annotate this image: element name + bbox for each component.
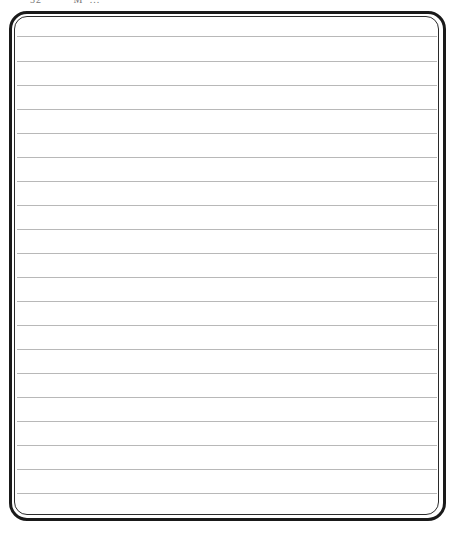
ruled-line	[17, 109, 437, 110]
ruled-line	[17, 181, 437, 182]
ruled-line	[17, 301, 437, 302]
ruled-line	[17, 36, 437, 37]
ruled-line	[17, 133, 437, 134]
ruled-line	[17, 229, 437, 230]
page-header: 32 M' ...	[30, 0, 100, 5]
ruled-line	[17, 445, 437, 446]
page-number: 32	[30, 0, 42, 5]
ruled-line	[17, 325, 437, 326]
ruled-line	[17, 277, 437, 278]
ruled-line	[17, 61, 437, 62]
ruled-line	[17, 373, 437, 374]
ruled-line	[17, 157, 437, 158]
ruled-line	[17, 421, 437, 422]
ruled-line	[17, 469, 437, 470]
ruled-line	[17, 85, 437, 86]
ruled-line	[17, 253, 437, 254]
ruled-line	[17, 349, 437, 350]
running-title: M' ...	[74, 0, 101, 5]
ruled-line	[17, 397, 437, 398]
ruled-line	[17, 205, 437, 206]
writing-area	[14, 16, 439, 515]
ruled-line	[17, 493, 437, 494]
